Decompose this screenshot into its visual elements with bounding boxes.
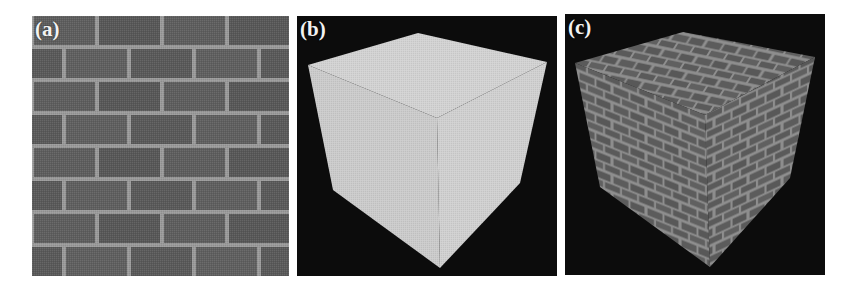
panel-label-c: (c) — [568, 15, 591, 39]
panel-c-textured-cube: (c) — [565, 14, 825, 275]
brick-texture-image — [32, 16, 289, 276]
panel-b-plain-cube: (b) — [297, 16, 557, 276]
plain-cube-image — [297, 16, 557, 276]
textured-cube-image — [565, 14, 825, 275]
panel-label-b: (b) — [300, 17, 326, 41]
panel-label-a: (a) — [35, 17, 60, 41]
panel-a-brick-texture: (a) — [32, 16, 289, 276]
